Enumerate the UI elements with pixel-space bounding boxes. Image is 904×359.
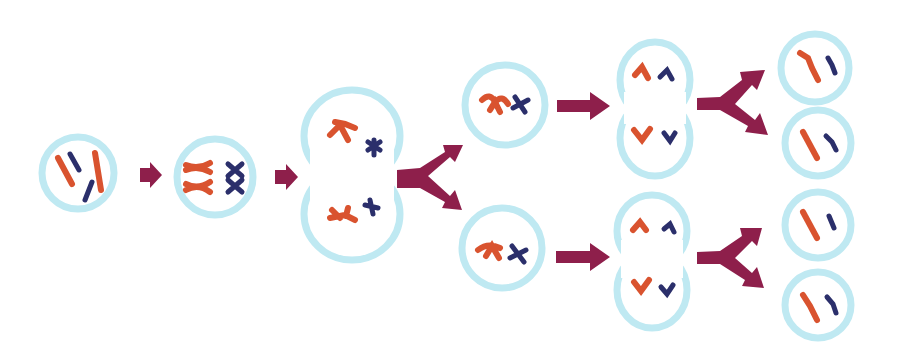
replicated-cell: [177, 139, 253, 215]
daughter-cell-top: [465, 65, 545, 145]
arrow-icon: [140, 162, 162, 188]
dividing-cell-meiosis-2-top: [620, 42, 690, 176]
gamete-cell-1: [781, 34, 849, 102]
daughter-cell-bottom: [462, 208, 542, 288]
parent-cell: [42, 137, 114, 209]
split-arrow-icon: [697, 228, 764, 288]
arrow-icon: [556, 243, 610, 271]
arrow-icon: [557, 92, 610, 120]
gamete-cell-2: [785, 110, 851, 176]
split-arrow-icon: [697, 70, 768, 135]
gamete-cell-4: [785, 272, 851, 338]
gamete-cell-3: [785, 192, 851, 258]
dividing-cell-meiosis-2-bottom: [617, 195, 687, 328]
split-arrow-icon: [397, 145, 463, 210]
dividing-cell-meiosis-1: [304, 90, 400, 260]
arrow-icon: [275, 164, 298, 190]
